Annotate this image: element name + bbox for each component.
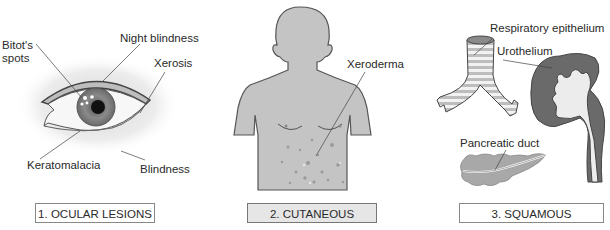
label-night-blindness: Night blindness — [120, 32, 199, 45]
caption-ocular-lesions: 1. OCULAR LESIONS — [35, 203, 155, 223]
label-pancreatic-duct: Pancreatic duct — [460, 137, 539, 150]
panel-cutaneous-lesions: Xeroderma 2. CUTANEOUS LESIONS — [200, 0, 410, 230]
panel-ocular-lesions: Bitot's spots Night blindness Xerosis Ke… — [0, 0, 200, 230]
caption-cutaneous-lesions: 2. CUTANEOUS LESIONS — [247, 203, 377, 223]
panel-squamous-metaplasia: Respiratory epithelium Urothelium Pancre… — [410, 0, 610, 230]
label-xerosis: Xerosis — [154, 57, 192, 70]
label-bitots-spots: Bitot's spots — [2, 39, 33, 65]
label-bitots-line2: spots — [2, 52, 33, 65]
label-xeroderma: Xeroderma — [347, 58, 404, 71]
label-respiratory-epithelium: Respiratory epithelium — [490, 22, 604, 35]
caption-squamous-metaplasia: 3. SQUAMOUS METAPLASIA — [459, 203, 604, 223]
label-keratomalacia: Keratomalacia — [27, 159, 101, 172]
torso-illustration — [200, 0, 410, 230]
label-bitots-line1: Bitot's — [2, 39, 33, 52]
label-urothelium: Urothelium — [497, 45, 553, 58]
label-blindness: Blindness — [140, 163, 190, 176]
